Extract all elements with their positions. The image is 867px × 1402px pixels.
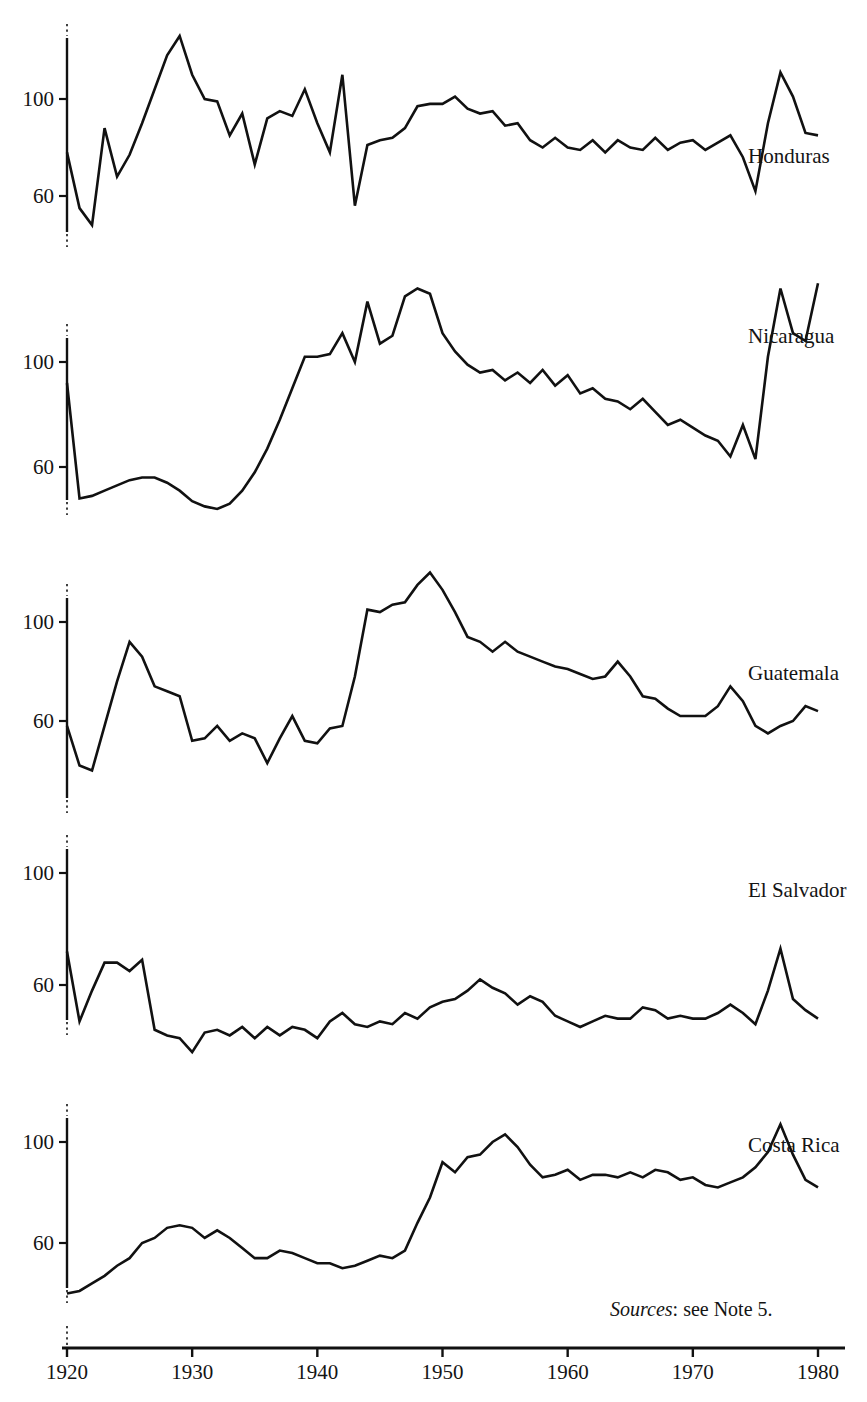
- panel-el-salvador: 60100El Salvador: [23, 835, 847, 1052]
- series-label-honduras: Honduras: [748, 144, 830, 168]
- series-line-el-salvador: [67, 949, 818, 1053]
- series-label-nicaragua: Nicaragua: [748, 324, 835, 348]
- y-tick-label: 60: [33, 184, 54, 208]
- source-note-prefix: Sources: [610, 1298, 673, 1320]
- y-tick-label: 100: [23, 350, 55, 374]
- y-tick-label: 100: [23, 87, 55, 111]
- chart-figure: 60100Honduras60100Nicaragua60100Guatemal…: [0, 0, 867, 1402]
- x-tick-label: 1920: [46, 1360, 88, 1384]
- x-tick-label: 1980: [797, 1360, 839, 1384]
- panel-guatemala: 60100Guatemala: [23, 573, 840, 814]
- x-tick-label: 1930: [171, 1360, 213, 1384]
- series-line-costa-rica: [67, 1124, 818, 1293]
- y-tick-label: 60: [33, 1231, 54, 1255]
- panel-nicaragua: 60100Nicaragua: [23, 283, 835, 515]
- x-tick-label: 1960: [547, 1360, 589, 1384]
- x-tick-label: 1970: [672, 1360, 714, 1384]
- y-tick-label: 60: [33, 455, 54, 479]
- source-note: Sources: see Note 5.: [610, 1298, 773, 1321]
- source-note-text: : see Note 5.: [673, 1298, 773, 1320]
- multi-panel-line-chart: 60100Honduras60100Nicaragua60100Guatemal…: [0, 0, 867, 1402]
- x-axis: 1920193019401950196019701980: [46, 1326, 845, 1384]
- x-tick-label: 1940: [296, 1360, 338, 1384]
- y-tick-label: 100: [23, 1130, 55, 1154]
- panel-honduras: 60100Honduras: [23, 24, 830, 247]
- y-tick-label: 60: [33, 709, 54, 733]
- x-tick-label: 1950: [422, 1360, 464, 1384]
- series-label-el-salvador: El Salvador: [748, 878, 847, 902]
- y-tick-label: 100: [23, 610, 55, 634]
- series-line-guatemala: [67, 573, 818, 771]
- panel-costa-rica: 60100Costa Rica: [23, 1104, 841, 1303]
- series-label-guatemala: Guatemala: [748, 661, 840, 685]
- y-tick-label: 60: [33, 973, 54, 997]
- y-tick-label: 100: [23, 861, 55, 885]
- series-line-nicaragua: [67, 283, 818, 509]
- series-line-honduras: [67, 36, 818, 225]
- series-label-costa-rica: Costa Rica: [748, 1133, 840, 1157]
